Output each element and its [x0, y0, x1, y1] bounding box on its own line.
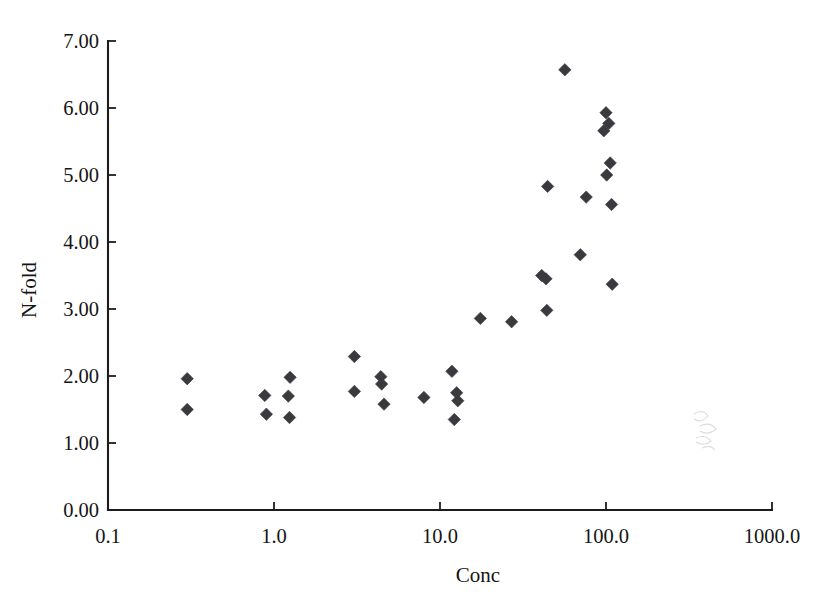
y-tick-label: 1.00 [63, 432, 99, 454]
chart-canvas: 7.00 6.00 5.00 4.00 3.00 2.00 1.00 0.00 … [0, 0, 826, 605]
x-axis-title: Conc [456, 563, 500, 587]
data-point-marker [474, 312, 486, 324]
y-tick-label: 7.00 [63, 30, 99, 52]
y-tick-label: 3.00 [63, 298, 99, 320]
data-point-marker [283, 411, 295, 423]
y-tick-label: 4.00 [63, 231, 99, 253]
data-point-marker [448, 413, 460, 425]
x-axis-tick-labels: 0.1 1.0 10.0 100.0 1000.0 [95, 525, 800, 547]
scan-artifact-smudge [694, 411, 716, 450]
data-point-marker [600, 106, 612, 118]
data-point-marker [505, 316, 517, 328]
data-point-marker [418, 391, 430, 403]
data-point-marker [348, 385, 360, 397]
data-point-marker [541, 304, 553, 316]
x-tick-label: 0.1 [95, 525, 121, 547]
data-point-marker [574, 249, 586, 261]
data-point-marker [282, 390, 294, 402]
x-tick-label: 1000.0 [744, 525, 800, 547]
data-point-marker [601, 169, 613, 181]
data-point-marker [541, 180, 553, 192]
y-axis-title: N-fold [17, 262, 41, 318]
data-point-marker [604, 157, 616, 169]
data-point-marker [378, 398, 390, 410]
data-point-marker [559, 64, 571, 76]
data-point-marker [348, 350, 360, 362]
y-axis-tick-labels: 7.00 6.00 5.00 4.00 3.00 2.00 1.00 0.00 [63, 30, 99, 521]
data-point-marker [452, 395, 464, 407]
y-tick-label: 0.00 [63, 499, 99, 521]
data-point-marker [580, 191, 592, 203]
x-axis-ticks [108, 502, 772, 510]
x-tick-label: 100.0 [583, 525, 629, 547]
data-point-marker [259, 389, 271, 401]
axis-lines [108, 41, 772, 510]
data-point-marker [446, 365, 458, 377]
data-point-marker [284, 371, 296, 383]
x-tick-label: 10.0 [422, 525, 458, 547]
x-tick-label: 1.0 [261, 525, 287, 547]
y-axis-ticks [108, 41, 116, 510]
data-points-layer [181, 64, 618, 426]
data-point-marker [260, 408, 272, 420]
y-tick-label: 6.00 [63, 97, 99, 119]
scatter-plot-figure: 7.00 6.00 5.00 4.00 3.00 2.00 1.00 0.00 … [0, 0, 826, 605]
data-point-marker [606, 278, 618, 290]
y-tick-label: 5.00 [63, 164, 99, 186]
data-point-marker [181, 403, 193, 415]
data-point-marker [181, 372, 193, 384]
y-tick-label: 2.00 [63, 365, 99, 387]
data-point-marker [605, 198, 617, 210]
